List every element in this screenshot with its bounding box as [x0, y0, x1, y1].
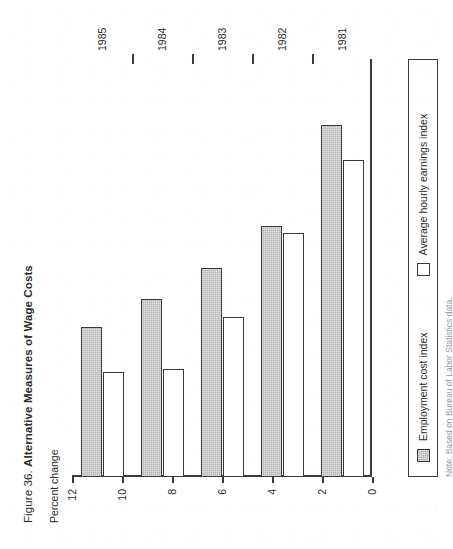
- category-divider-tick-1982: [312, 54, 314, 64]
- bar-1985-eci: [81, 327, 102, 477]
- legend-label-average-hourly-earnings-index: Average hourly earnings index: [417, 114, 429, 256]
- value-tick-label-6: 6: [216, 489, 228, 511]
- value-tick-label-12: 12: [66, 489, 78, 511]
- plot-area: 121086420 19811982198319841985: [72, 59, 372, 477]
- bar-1982-ahe: [283, 233, 304, 477]
- legend-swatch-employment-cost-index: [417, 449, 430, 462]
- value-tick-label-8: 8: [166, 489, 178, 511]
- value-tick-label-2: 2: [316, 489, 328, 511]
- value-tick-10: [122, 477, 124, 483]
- bar-1983-ahe: [223, 317, 244, 477]
- value-tick-label-0: 0: [366, 489, 378, 511]
- legend-swatch-average-hourly-earnings-index: [417, 263, 430, 276]
- legend-label-employment-cost-index: Employment cost index: [417, 332, 429, 441]
- category-label-1984: 1984: [156, 28, 168, 51]
- figure-canvas: Figure 36. Alternative Measures of Wage …: [0, 0, 453, 549]
- category-divider-tick-1983: [252, 54, 254, 64]
- bar-1985-ahe: [103, 373, 124, 478]
- bar-1984-eci: [141, 299, 162, 477]
- category-label-1983: 1983: [216, 28, 228, 51]
- figure-number: Figure 36.: [22, 470, 34, 523]
- figure-title-text: Alternative Measures of Wage Costs: [22, 265, 34, 467]
- category-divider-tick-1985: [132, 54, 134, 64]
- category-label-1981: 1981: [336, 28, 348, 51]
- legend: Employment cost index Average hourly ear…: [408, 59, 438, 477]
- bar-1983-eci: [201, 268, 222, 477]
- figure-title: Figure 36. Alternative Measures of Wage …: [22, 265, 34, 523]
- bar-1981-eci: [321, 125, 342, 477]
- bar-1982-eci: [261, 226, 282, 477]
- value-tick-6: [222, 477, 224, 483]
- value-tick-2: [322, 477, 324, 483]
- bar-1984-ahe: [163, 369, 184, 477]
- legend-item-employment-cost-index: Employment cost index: [417, 332, 430, 462]
- value-tick-8: [172, 477, 174, 483]
- axis-title: Percent change: [48, 449, 60, 523]
- value-tick-label-4: 4: [266, 489, 278, 511]
- category-label-1985: 1985: [96, 28, 108, 51]
- category-divider-tick-1984: [192, 54, 194, 64]
- value-tick-0: [372, 477, 374, 483]
- value-tick-12: [72, 477, 74, 483]
- value-tick-label-10: 10: [116, 489, 128, 511]
- figure-note: Note: Based on Bureau of Labor Statistic…: [444, 297, 453, 477]
- value-tick-4: [272, 477, 274, 483]
- category-axis-line: [370, 59, 372, 477]
- bar-1981-ahe: [343, 160, 364, 477]
- legend-item-average-hourly-earnings-index: Average hourly earnings index: [417, 114, 430, 277]
- category-label-1982: 1982: [276, 28, 288, 51]
